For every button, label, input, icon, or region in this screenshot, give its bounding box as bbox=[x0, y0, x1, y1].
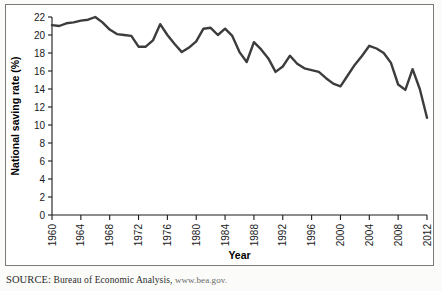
x-tick-label: 1980 bbox=[191, 224, 202, 247]
y-tick-label: 8 bbox=[39, 138, 45, 149]
x-tick-label: 1976 bbox=[162, 224, 173, 247]
source-label: SOURCE: bbox=[6, 274, 51, 285]
figure-container: 0246810121416182022 19601964196819721976… bbox=[0, 0, 442, 291]
y-axis-title: National saving rate (%) bbox=[9, 56, 21, 175]
y-tick-label: 0 bbox=[39, 210, 45, 221]
y-tick-label: 18 bbox=[34, 48, 46, 59]
x-tick-label: 1964 bbox=[75, 224, 86, 247]
x-tick-label: 1992 bbox=[277, 224, 288, 247]
x-tick-label: 1968 bbox=[104, 224, 115, 247]
x-tick-label: 2000 bbox=[335, 224, 346, 247]
y-tick-label: 6 bbox=[39, 156, 45, 167]
x-tick-label: 1988 bbox=[249, 224, 260, 247]
y-tick-label: 4 bbox=[39, 174, 45, 185]
x-tick-label: 1984 bbox=[220, 224, 231, 247]
y-tick-label: 20 bbox=[34, 30, 46, 41]
y-tick-label: 10 bbox=[34, 120, 46, 131]
x-tick-label: 2008 bbox=[393, 224, 404, 247]
source-text: Bureau of Economic Analysis, bbox=[54, 275, 173, 285]
y-tick-label: 16 bbox=[34, 66, 46, 77]
y-tick-label: 22 bbox=[34, 12, 46, 23]
x-tick-label: 1960 bbox=[47, 224, 58, 247]
y-tick-label: 14 bbox=[34, 84, 46, 95]
source-url: www.bea.gov. bbox=[175, 275, 227, 285]
x-tick-label: 1996 bbox=[306, 224, 317, 247]
x-axis-title: Year bbox=[228, 249, 250, 261]
y-axis-ticks: 0246810121416182022 bbox=[34, 12, 52, 221]
x-tick-label: 2004 bbox=[364, 224, 375, 247]
data-line-series bbox=[52, 17, 427, 118]
x-tick-label: 2012 bbox=[422, 224, 433, 247]
data-line bbox=[52, 17, 427, 118]
x-tick-label: 1972 bbox=[133, 224, 144, 247]
y-tick-label: 12 bbox=[34, 102, 46, 113]
national-saving-rate-line-chart: 0246810121416182022 19601964196819721976… bbox=[5, 4, 434, 266]
source-note: SOURCE: Bureau of Economic Analysis, www… bbox=[6, 274, 436, 285]
x-axis-ticks: 1960196419681972197619801984198819921996… bbox=[47, 215, 433, 246]
y-tick-label: 2 bbox=[39, 192, 45, 203]
